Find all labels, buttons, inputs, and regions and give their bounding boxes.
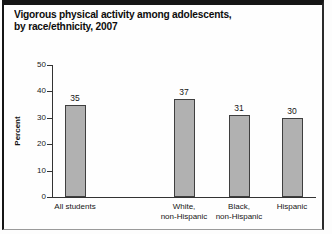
y-tick-label: 20 (30, 139, 46, 149)
bar (229, 115, 250, 197)
bar (174, 99, 195, 197)
y-axis-line (52, 65, 53, 197)
y-tick-label: 0 (30, 192, 46, 202)
y-tick-mark (47, 144, 52, 145)
y-tick-label: 10 (30, 166, 46, 176)
y-tick-mark (47, 171, 52, 172)
y-tick-mark (47, 91, 52, 92)
y-tick-label: 40 (30, 86, 46, 96)
plot-area: 0102030405035All students37White, non-Hi… (0, 0, 332, 234)
bar (282, 118, 303, 197)
x-category-label: Hispanic (258, 202, 326, 212)
y-tick-mark (47, 65, 52, 66)
x-axis-line (52, 197, 316, 198)
y-tick-label: 50 (30, 60, 46, 70)
y-tick-label: 30 (30, 113, 46, 123)
y-tick-mark (47, 197, 52, 198)
y-tick-mark (47, 118, 52, 119)
x-category-label: All students (41, 202, 109, 212)
bar-value-label: 35 (60, 93, 90, 103)
bar-value-label: 31 (224, 103, 254, 113)
bar-value-label: 30 (277, 106, 307, 116)
bar (65, 105, 86, 197)
bar-value-label: 37 (169, 87, 199, 97)
